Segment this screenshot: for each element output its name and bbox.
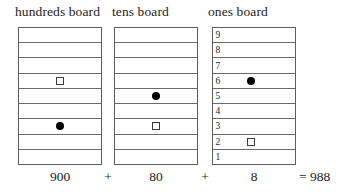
counter-square[interactable] bbox=[56, 77, 64, 85]
board-row[interactable]: 4 bbox=[213, 104, 295, 119]
row-number-label: 3 bbox=[216, 121, 221, 131]
counter-dot[interactable] bbox=[152, 92, 160, 100]
row-number-label: 5 bbox=[216, 91, 221, 101]
counter-square[interactable] bbox=[152, 122, 160, 130]
equation-ones-value: 8 bbox=[212, 168, 296, 186]
board-row[interactable] bbox=[19, 119, 101, 134]
row-number-label: 1 bbox=[216, 152, 221, 162]
board-row[interactable]: 1 bbox=[213, 150, 295, 164]
board-tens[interactable] bbox=[114, 27, 198, 165]
equation-row: 900 + 80 + 8 = 988 bbox=[0, 168, 346, 190]
board-row[interactable] bbox=[115, 58, 197, 73]
board-hundreds-rows bbox=[19, 28, 101, 164]
row-number-label: 2 bbox=[216, 137, 221, 147]
board-row[interactable]: 8 bbox=[213, 43, 295, 58]
board-hundreds[interactable] bbox=[18, 27, 102, 165]
board-row[interactable] bbox=[115, 150, 197, 164]
board-tens-rows bbox=[115, 28, 197, 164]
board-title-hundreds: hundreds board bbox=[15, 4, 100, 20]
board-ones[interactable]: 9 8 7 6 5 4 3 2 1 bbox=[212, 27, 296, 165]
row-number-label: 9 bbox=[216, 30, 221, 40]
board-title-tens: tens board bbox=[112, 4, 169, 20]
equation-hundreds-value: 900 bbox=[18, 168, 102, 186]
board-row[interactable] bbox=[115, 119, 197, 134]
board-row[interactable]: 3 bbox=[213, 119, 295, 134]
equation-total: = 988 bbox=[296, 168, 346, 186]
row-number-label: 6 bbox=[216, 76, 221, 86]
board-row[interactable] bbox=[19, 58, 101, 73]
board-title-ones: ones board bbox=[208, 4, 268, 20]
board-row[interactable]: 9 bbox=[213, 28, 295, 43]
row-number-label: 8 bbox=[216, 45, 221, 55]
board-row[interactable] bbox=[115, 135, 197, 150]
board-row[interactable] bbox=[115, 89, 197, 104]
board-row[interactable] bbox=[19, 43, 101, 58]
board-ones-rows: 9 8 7 6 5 4 3 2 1 bbox=[213, 28, 295, 164]
board-row[interactable]: 6 bbox=[213, 74, 295, 89]
board-row[interactable]: 2 bbox=[213, 135, 295, 150]
equation-plus-sign-2: + bbox=[198, 168, 212, 186]
board-row[interactable] bbox=[19, 28, 101, 43]
board-row[interactable] bbox=[19, 135, 101, 150]
board-row[interactable] bbox=[115, 43, 197, 58]
board-row[interactable] bbox=[19, 104, 101, 119]
board-row[interactable] bbox=[115, 104, 197, 119]
counter-dot[interactable] bbox=[56, 122, 64, 130]
board-titles-row: hundreds board tens board ones board bbox=[0, 4, 346, 24]
board-row[interactable] bbox=[115, 74, 197, 89]
row-number-label: 7 bbox=[216, 61, 221, 71]
board-row[interactable]: 7 bbox=[213, 58, 295, 73]
board-row[interactable] bbox=[115, 28, 197, 43]
counter-dot[interactable] bbox=[247, 77, 255, 85]
equation-plus-sign-1: + bbox=[102, 168, 114, 186]
board-row[interactable] bbox=[19, 74, 101, 89]
board-row[interactable] bbox=[19, 150, 101, 164]
row-number-label: 4 bbox=[216, 106, 221, 116]
equation-tens-value: 80 bbox=[114, 168, 198, 186]
board-row[interactable]: 5 bbox=[213, 89, 295, 104]
counter-square[interactable] bbox=[247, 138, 255, 146]
board-row[interactable] bbox=[19, 89, 101, 104]
